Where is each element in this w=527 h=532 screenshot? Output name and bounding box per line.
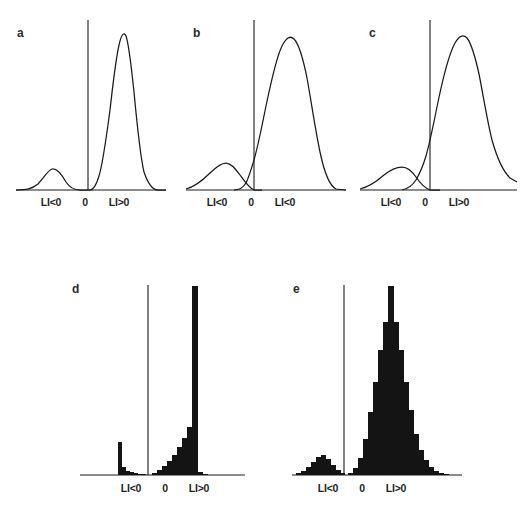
histogram-bar [439, 473, 444, 475]
histogram-bar [358, 458, 363, 475]
axis-label-positive: LI>0 [436, 196, 482, 208]
panel-b-axis-labels: LI<0 0 LI<0 [194, 196, 308, 208]
histogram-bar [404, 382, 409, 475]
axis-label-negative: LI<0 [368, 196, 414, 208]
histogram-bar [399, 350, 404, 475]
panel-c-axis-labels: LI<0 0 LI>0 [368, 196, 482, 208]
histogram-bar [157, 470, 162, 475]
histogram-bar [198, 472, 203, 475]
axis-label-positive: LI>0 [373, 482, 419, 494]
histogram-bar [167, 461, 172, 475]
histogram-bar [311, 462, 316, 475]
histogram-bar [368, 412, 373, 475]
right-component-curve [234, 37, 346, 190]
panel-a-axis-labels: LI<0 0 LI>0 [28, 196, 142, 208]
histogram-bar [419, 450, 424, 475]
histogram-bar [301, 471, 306, 475]
histogram-bar [363, 439, 368, 475]
axis-label-negative: LI<0 [108, 482, 154, 494]
panel-d-plot [60, 270, 260, 490]
histogram-bar [321, 455, 326, 475]
panel-d: d [60, 270, 260, 532]
panel-e: e [282, 270, 497, 532]
histogram-bar [172, 455, 177, 475]
axis-label-positive: LI>0 [176, 482, 222, 494]
histogram-bar [378, 350, 383, 475]
histogram-bar [162, 466, 167, 475]
panel-b-plot [176, 0, 352, 200]
axis-label-negative: LI<0 [305, 482, 351, 494]
panel-c: c LI<0 0 LI>0 [352, 0, 527, 220]
panel-a-plot [0, 0, 176, 200]
histogram-bar [331, 465, 336, 475]
axis-label-negative: LI<0 [28, 196, 74, 208]
histogram-bars [296, 286, 449, 475]
axis-label-zero: 0 [154, 482, 176, 494]
histogram-bar-mode [192, 286, 198, 475]
figure-container: a LI<0 0 LI>0 b LI<0 0 LI<0 [0, 0, 527, 532]
panel-e-axis-labels: LI<0 0 LI>0 [305, 482, 419, 494]
histogram-bar [122, 467, 126, 475]
histogram-bar [414, 434, 419, 475]
right-component-curve [402, 36, 517, 190]
histogram-bar [444, 474, 449, 475]
histogram-bar [353, 468, 358, 475]
panel-c-plot [352, 0, 527, 200]
panel-d-axis-labels: LI<0 0 LI>0 [108, 482, 222, 494]
left-component-curve [360, 167, 440, 190]
axis-label-zero: 0 [351, 482, 373, 494]
histogram-bar [130, 472, 134, 475]
histogram-bar-mode [388, 286, 394, 475]
histogram-bar [138, 474, 142, 475]
histogram-bar [336, 470, 341, 475]
histogram-bar [316, 457, 321, 475]
histogram-bar [383, 322, 388, 475]
histogram-bar [434, 471, 439, 475]
histogram-bar [373, 382, 378, 475]
histogram-bar [341, 473, 345, 475]
histogram-bars [118, 286, 208, 475]
axis-label-positive: LI>0 [96, 196, 142, 208]
panel-b: b LI<0 0 LI<0 [176, 0, 352, 220]
axis-label-negative: LI<0 [194, 196, 240, 208]
histogram-bar [118, 442, 122, 475]
histogram-bar [152, 473, 157, 475]
panel-e-plot [282, 270, 497, 490]
histogram-bar [306, 467, 311, 475]
axis-label-zero: 0 [74, 196, 96, 208]
panel-a: a LI<0 0 LI>0 [0, 0, 176, 220]
histogram-bar [177, 447, 182, 475]
histogram-bar [409, 410, 414, 475]
axis-label-zero: 0 [240, 196, 262, 208]
histogram-bar [203, 474, 208, 475]
histogram-bar [296, 473, 301, 475]
axis-label-zero: 0 [414, 196, 436, 208]
histogram-bar [187, 427, 192, 475]
histogram-bar [429, 467, 434, 475]
histogram-bar [394, 322, 399, 475]
histogram-bar [126, 471, 130, 475]
axis-label-positive: LI<0 [262, 196, 308, 208]
histogram-bar [134, 473, 138, 475]
histogram-bar [348, 473, 353, 475]
histogram-bar [182, 438, 187, 475]
histogram-bar [326, 459, 331, 475]
histogram-bar [424, 460, 429, 475]
histogram-bar [142, 474, 146, 475]
left-component-curve [186, 163, 262, 190]
density-curve [16, 34, 166, 190]
